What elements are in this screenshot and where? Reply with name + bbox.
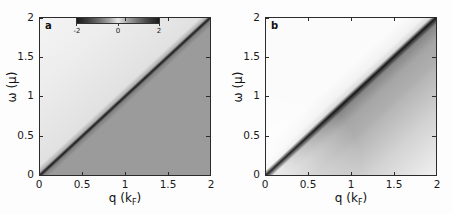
panel-a-xticklabel-1: 0.5 — [74, 178, 91, 190]
panel-a-heatmap — [40, 18, 210, 175]
panel-b-ytick-1.5 — [265, 57, 269, 58]
panel-b-yticklabel-1-text: 0.5 — [243, 129, 260, 141]
panel-b-yticklabel-4-text: 2 — [253, 11, 260, 23]
panel-b-xticklabel-0: 0 — [262, 178, 269, 190]
panel-a-xtick-2 — [210, 172, 211, 176]
panel-a-xticklabel-4: 2 — [208, 178, 215, 190]
panel-a-xtick-top-0.5 — [82, 17, 83, 21]
panel-b-yticklabel-3-text: 1.5 — [243, 50, 260, 62]
panel-b-diagonal-line — [265, 17, 437, 176]
panel-a-xticklabel-0: 0 — [36, 178, 43, 190]
panel-b-xtick-top-1.5 — [394, 17, 395, 21]
panel-b-xaxis-title: q (kF) — [265, 191, 437, 207]
panel-b-xtick-top-0.5 — [308, 17, 309, 21]
panel-a-xticklabel-3: 1.5 — [160, 178, 177, 190]
panel-b-yticklabel-0-text: 0 — [253, 168, 260, 180]
panel-b-xtick-2 — [436, 172, 437, 176]
panel-b-heatmap — [266, 18, 436, 175]
panel-a-yticklabel-4-text: 2 — [27, 11, 34, 23]
panel-b-letter: b — [271, 21, 278, 31]
panel-a-diagonal-line — [39, 17, 211, 176]
panel-b-yaxis-title: ω (μ) — [231, 47, 245, 127]
panel-b-xticklabel-4: 2 — [434, 178, 441, 190]
panel-a-xtick-1.5 — [168, 172, 169, 176]
panel-b-xtick-top-1 — [351, 17, 352, 21]
panel-a-yticklabel-0-text: 0 — [27, 168, 34, 180]
panel-b-xtick-1 — [351, 172, 352, 176]
panel-a-plot-area — [39, 17, 211, 176]
panel-a-xaxis-title-close: ) — [136, 191, 141, 205]
colorbar-tick-mid — [118, 24, 119, 26]
panel-b-ytick-2 — [265, 18, 269, 19]
panel-a-ytick-right-1.5 — [206, 57, 210, 58]
panel-a-xtick-top-1.5 — [168, 17, 169, 21]
panel-b-xtick-0.5 — [308, 172, 309, 176]
panel-a-ytick-2 — [39, 18, 43, 19]
panel-a-yaxis-title: ω (μ) — [5, 47, 19, 127]
panel-b-ytick-0 — [265, 175, 269, 176]
colorbar: -2 0 2 — [76, 17, 160, 39]
panel-b-xticklabel-2: 1 — [348, 178, 355, 190]
colorbar-label-max: 2 — [157, 27, 161, 35]
panel-b-xaxis-title-close: ) — [362, 191, 367, 205]
panel-a-xticklabel-2: 1 — [122, 178, 129, 190]
panel-a-xtick-top-1 — [125, 17, 126, 21]
panel-b-ytick-right-1.5 — [432, 57, 436, 58]
panel-a-ytick-0.5 — [39, 136, 43, 137]
panel-b-ytick-right-1 — [432, 96, 436, 97]
panel-a: a -2 0 2 0 0.5 1 — [0, 0, 226, 214]
panel-a-ytick-right-0.5 — [206, 136, 210, 137]
panel-b: b 0 0.5 1 1.5 2 0 0.5 1 1.5 2 q (kF) — [226, 0, 452, 214]
panel-a-ytick-1 — [39, 96, 43, 97]
figure-root: a -2 0 2 0 0.5 1 — [0, 0, 452, 214]
panel-b-ytick-1 — [265, 96, 269, 97]
panel-b-xticklabel-3: 1.5 — [386, 178, 403, 190]
colorbar-tick-min — [76, 24, 77, 26]
panel-a-ytick-0 — [39, 175, 43, 176]
colorbar-label-mid: 0 — [116, 27, 120, 35]
colorbar-tick-max — [159, 24, 160, 26]
panel-a-ytick-right-1 — [206, 96, 210, 97]
panel-b-yticklabel-2-text: 1 — [253, 89, 260, 101]
panel-a-xaxis-title: q (kF) — [39, 191, 211, 207]
panel-b-xticklabel-1: 0.5 — [300, 178, 317, 190]
colorbar-gradient — [76, 17, 160, 24]
panel-a-xtick-0.5 — [82, 172, 83, 176]
panel-b-xaxis-title-main: q (k — [335, 191, 358, 205]
panel-b-xtick-1.5 — [394, 172, 395, 176]
panel-b-ytick-right-0.5 — [432, 136, 436, 137]
panel-a-yticklabel-1-text: 0.5 — [17, 129, 34, 141]
panel-a-ytick-1.5 — [39, 57, 43, 58]
panel-a-yticklabel-2-text: 1 — [27, 89, 34, 101]
panel-b-plot-area — [265, 17, 437, 176]
panel-a-xtick-1 — [125, 172, 126, 176]
colorbar-label-min: -2 — [74, 27, 81, 35]
panel-a-xaxis-title-main: q (k — [109, 191, 132, 205]
panel-a-yticklabel-3-text: 1.5 — [17, 50, 34, 62]
panel-b-ytick-0.5 — [265, 136, 269, 137]
panel-a-letter: a — [45, 21, 52, 31]
